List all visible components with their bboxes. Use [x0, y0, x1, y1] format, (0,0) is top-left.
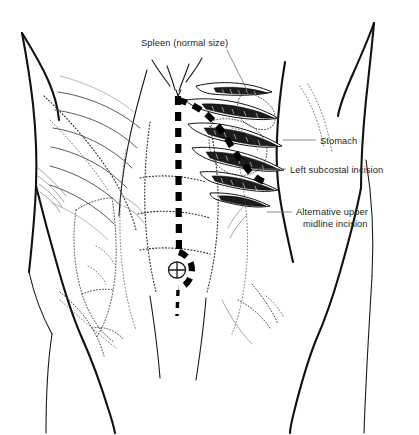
sternum	[152, 58, 202, 96]
label-alternative-upper-midline-incision-line2: midline incision	[303, 219, 368, 229]
label-spleen: Spleen (normal size)	[141, 38, 228, 48]
inguinal-lines	[150, 296, 206, 380]
label-left-subcostal-incision: Left subcostal incision	[290, 165, 383, 175]
umbilicus	[169, 262, 186, 278]
anatomical-diagram: Spleen (normal size) Stomach Left subcos…	[0, 0, 419, 435]
upper-midline-incision-line	[177, 96, 192, 316]
right-ribcage	[186, 83, 284, 207]
label-stomach: Stomach	[320, 136, 357, 146]
label-alternative-upper-midline-incision-line1: Alternative upper	[296, 207, 368, 217]
left-ribcage	[38, 76, 140, 240]
